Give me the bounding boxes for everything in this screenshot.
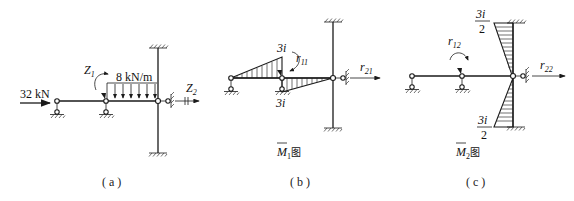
fixed-support-top xyxy=(324,19,343,23)
diagram-title-m1: M1图 xyxy=(276,145,301,161)
pin-support-middle xyxy=(99,103,114,118)
moment-region-left xyxy=(231,57,282,78)
pin-support-middle xyxy=(455,78,470,93)
pin-support-left xyxy=(224,80,239,95)
hinge-middle xyxy=(104,99,109,104)
moment-label-top: 3i 2 xyxy=(475,7,490,36)
svg-text:3i: 3i xyxy=(477,113,487,127)
fixed-support-bottom xyxy=(507,127,525,131)
moment-region-right xyxy=(282,78,333,92)
svg-text:2: 2 xyxy=(479,22,485,36)
z1-label: Z1 xyxy=(84,63,95,79)
udl-arrows xyxy=(115,84,155,98)
hinge-joint xyxy=(156,99,161,104)
z2-label: Z2 xyxy=(186,81,197,97)
hinge-left xyxy=(55,99,60,104)
rotation-arrow-z1 xyxy=(95,74,108,90)
hinge-middle xyxy=(280,76,285,81)
rigid-arm-icon xyxy=(101,93,106,99)
panel-c: r12 r22 3i 2 3i 2 M2图 ( c ) xyxy=(405,7,565,189)
pin-support-left xyxy=(405,78,420,93)
svg-text:3i: 3i xyxy=(475,7,485,21)
hinge-joint xyxy=(331,76,336,81)
r12-label: r12 xyxy=(448,34,461,50)
fixed-support-bottom xyxy=(324,128,342,132)
horizontal-link-support xyxy=(160,92,174,108)
caption-b: ( b ) xyxy=(290,175,310,189)
panel-b: 3i r11 3i r21 M1图 ( b ) xyxy=(224,19,380,190)
rigid-arm-icon xyxy=(457,68,462,74)
horizontal-load-label: 32 kN xyxy=(20,87,50,101)
panel-a: 32 kN 8 kN/m Z1 xyxy=(20,45,199,190)
hinge-joint xyxy=(511,74,516,79)
r11-label: r11 xyxy=(296,51,308,67)
fixed-support-bottom xyxy=(149,153,167,157)
hinge-left xyxy=(410,74,415,79)
horizontal-link-support xyxy=(335,69,349,85)
caption-c: ( c ) xyxy=(466,175,485,189)
reaction-arrow-r12 xyxy=(450,53,468,60)
udl-label: 8 kN/m xyxy=(116,70,153,84)
structural-figure: 32 kN 8 kN/m Z1 xyxy=(0,0,574,201)
horizontal-link-support xyxy=(515,67,529,83)
pin-support-left xyxy=(50,103,65,118)
caption-a: ( a ) xyxy=(102,175,121,189)
moment-label-top: 3i xyxy=(276,41,286,55)
moment-label-bottom: 3i xyxy=(275,96,285,110)
hinge-left xyxy=(229,76,234,81)
hinge-middle xyxy=(460,74,465,79)
r22-label: r22 xyxy=(540,58,553,74)
moment-label-bottom: 3i 2 xyxy=(477,113,492,142)
svg-text:2: 2 xyxy=(481,128,487,142)
r21-label: r21 xyxy=(360,60,373,76)
diagram-title-m2: M2图 xyxy=(455,145,480,161)
fixed-support-top xyxy=(149,45,168,49)
